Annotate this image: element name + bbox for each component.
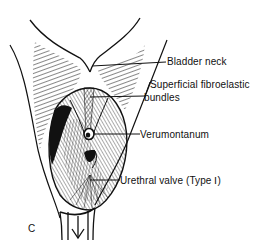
panel-letter: C: [28, 223, 35, 234]
down-arrow-icon: [72, 216, 84, 238]
urethra-illustration: [0, 0, 277, 240]
anatomical-figure: Bladder neck Superficial fibroelastic bu…: [0, 0, 277, 240]
label-urethral-valve: Urethral valve (Type Ⅰ): [120, 175, 221, 186]
prostatic-urethra: [49, 88, 127, 210]
label-bundles: bundles: [144, 92, 180, 103]
label-verumontanum: Verumontanum: [140, 129, 209, 140]
label-bladder-neck: Bladder neck: [167, 56, 227, 67]
label-superficial-fibroelastic: Superficial fibroelastic: [150, 79, 250, 90]
